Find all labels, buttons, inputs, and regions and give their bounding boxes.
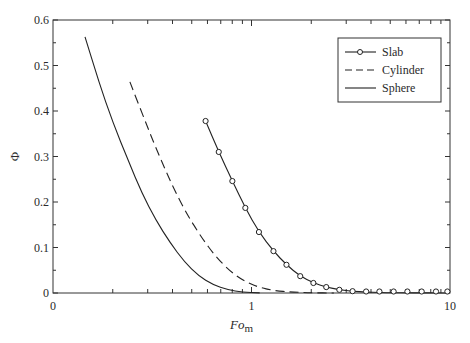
data-point-slab bbox=[445, 289, 450, 294]
y-axis-title: Φ bbox=[7, 151, 22, 161]
series-line-cylinder bbox=[130, 82, 334, 293]
data-point-slab bbox=[311, 280, 316, 285]
data-point-slab bbox=[230, 178, 235, 183]
data-point-slab bbox=[324, 284, 329, 289]
y-tick-label: 0.2 bbox=[34, 195, 49, 209]
data-point-slab bbox=[419, 289, 424, 294]
legend-label-cylinder: Cylinder bbox=[382, 63, 424, 77]
data-point-slab bbox=[216, 149, 221, 154]
data-point-slab bbox=[433, 289, 438, 294]
legend: SlabCylinderSphere bbox=[338, 38, 441, 102]
legend-label-slab: Slab bbox=[382, 45, 403, 59]
legend-marker-slab bbox=[358, 50, 363, 55]
data-point-slab bbox=[350, 289, 355, 294]
y-tick-label: 0.6 bbox=[34, 13, 49, 27]
data-point-slab bbox=[256, 229, 261, 234]
legend-label-sphere: Sphere bbox=[382, 81, 415, 95]
y-tick-label: 0 bbox=[43, 286, 49, 300]
data-point-slab bbox=[364, 289, 369, 294]
x-tick-label: 1 bbox=[249, 299, 255, 313]
data-point-slab bbox=[337, 287, 342, 292]
series-sphere bbox=[85, 37, 260, 293]
data-point-slab bbox=[298, 274, 303, 279]
y-tick-label: 0.5 bbox=[34, 59, 49, 73]
chart: 011000.10.20.30.40.50.6 Fom Φ SlabCylind… bbox=[0, 0, 470, 343]
series-line-slab bbox=[206, 121, 448, 293]
data-point-slab bbox=[391, 289, 396, 294]
series-line-sphere bbox=[85, 37, 260, 293]
data-point-slab bbox=[284, 262, 289, 267]
data-point-slab bbox=[405, 289, 410, 294]
x-axis-title: Fom bbox=[229, 317, 253, 334]
y-tick-label: 0.4 bbox=[34, 104, 49, 118]
data-point-slab bbox=[377, 289, 382, 294]
y-tick-label: 0.1 bbox=[34, 241, 49, 255]
data-point-slab bbox=[203, 118, 208, 123]
x-tick-label: 0 bbox=[50, 299, 56, 313]
y-tick-label: 0.3 bbox=[34, 150, 49, 164]
x-axis-title-main: Fo bbox=[229, 317, 245, 332]
x-tick-label: 10 bbox=[444, 299, 456, 313]
data-point-slab bbox=[243, 205, 248, 210]
series-slab bbox=[203, 118, 450, 294]
series-cylinder bbox=[130, 82, 334, 293]
x-axis-title-sub: m bbox=[244, 322, 253, 334]
data-point-slab bbox=[271, 249, 276, 254]
